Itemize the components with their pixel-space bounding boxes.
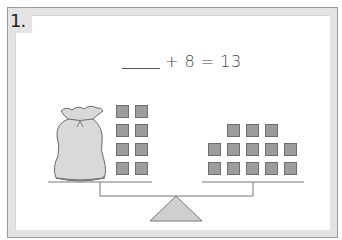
unit-square xyxy=(116,105,129,118)
unit-square xyxy=(246,143,259,156)
unit-square xyxy=(265,124,278,137)
unit-square xyxy=(227,143,240,156)
fulcrum-triangle xyxy=(150,196,202,221)
unit-square xyxy=(135,143,148,156)
scale-beam xyxy=(100,182,253,196)
unit-square xyxy=(208,143,221,156)
unit-square xyxy=(116,143,129,156)
unit-square xyxy=(265,143,278,156)
unit-square xyxy=(116,162,129,175)
unit-square xyxy=(265,162,278,175)
unit-square xyxy=(284,162,297,175)
money-bag-icon xyxy=(54,106,105,181)
unit-square xyxy=(246,162,259,175)
unit-square xyxy=(135,124,148,137)
unit-square xyxy=(135,162,148,175)
unit-square xyxy=(246,124,259,137)
unit-square xyxy=(284,143,297,156)
unit-square xyxy=(208,162,221,175)
balance-scale xyxy=(0,0,342,240)
unit-square xyxy=(227,124,240,137)
unit-square xyxy=(135,105,148,118)
unit-square xyxy=(227,162,240,175)
unit-square xyxy=(116,124,129,137)
